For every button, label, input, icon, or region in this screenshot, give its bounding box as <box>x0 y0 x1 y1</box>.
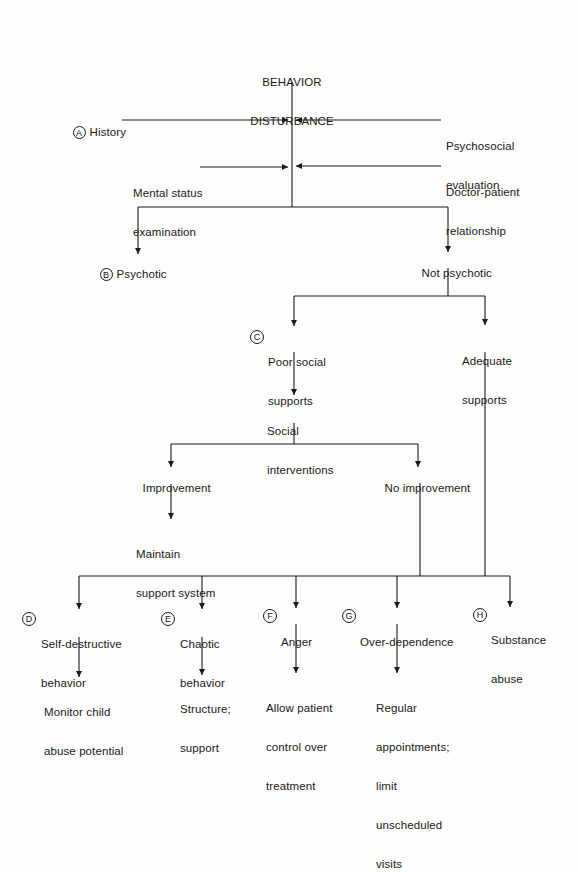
marker-h-icon: H <box>473 608 487 622</box>
doctor-patient-line-1: Doctor-patient <box>446 186 520 199</box>
mental-status-node: Mental status examination <box>133 161 203 252</box>
adequate-line-1: Adequate <box>462 355 512 368</box>
marker-e-icon: E <box>161 612 175 626</box>
psychosocial-line-1: Psychosocial <box>446 140 514 153</box>
no-improvement-node: No improvement <box>378 469 470 495</box>
substance-abuse-node: Substance abuse <box>491 608 546 699</box>
action-e-line-2: support <box>180 742 231 755</box>
doctor-patient-line-2: relationship <box>446 225 520 238</box>
mental-status-line-2: examination <box>133 226 203 239</box>
problem-h-line-1: Substance <box>491 634 546 647</box>
psychotic-node: BPsychotic <box>93 255 167 281</box>
improvement-label: Improvement <box>143 482 211 494</box>
action-f-line-3: treatment <box>266 780 333 793</box>
over-dependence-node: Over-dependence <box>360 610 454 662</box>
anger-action: Allow patient control over treatment <box>266 676 333 806</box>
action-d-line-2: abuse potential <box>44 745 124 758</box>
marker-c-icon: C <box>250 330 264 344</box>
action-g-line-4: unscheduled <box>376 819 450 832</box>
title-line-2: DISTURBANCE <box>240 115 344 128</box>
action-f-line-1: Allow patient <box>266 702 333 715</box>
problem-g-line-1: Over-dependence <box>360 636 454 649</box>
problem-e-line-1: Chaotic <box>180 638 225 651</box>
doctor-patient-node: Doctor-patient relationship <box>446 160 520 251</box>
action-g-line-3: limit <box>376 780 450 793</box>
action-g-line-5: visits <box>376 858 450 871</box>
marker-b-icon: B <box>100 268 113 281</box>
maintain-support-node: Maintain support system <box>136 522 215 613</box>
chaotic-action: Structure; support <box>180 677 231 768</box>
history-node: AHistory <box>66 113 126 139</box>
maintain-line-2: support system <box>136 587 215 600</box>
not-psychotic-node: Not psychotic <box>415 254 492 280</box>
social-interventions-node: Social interventions <box>267 399 334 490</box>
poor-social-line-1: Poor social <box>268 356 326 369</box>
psychotic-label: Psychotic <box>117 268 167 280</box>
marker-g-icon: G <box>342 609 356 623</box>
improvement-node: Improvement <box>136 469 211 495</box>
action-d-line-1: Monitor child <box>44 706 124 719</box>
adequate-supports-node: Adequate supports <box>462 329 512 420</box>
not-psychotic-label: Not psychotic <box>422 267 492 279</box>
problem-d-line-1: Self-destructive <box>41 638 122 651</box>
marker-d-icon: D <box>22 612 36 626</box>
no-improvement-label: No improvement <box>385 482 471 494</box>
social-interventions-line-2: interventions <box>267 464 334 477</box>
action-f-line-2: control over <box>266 741 333 754</box>
action-g-line-2: appointments; <box>376 741 450 754</box>
problem-h-line-2: abuse <box>491 673 546 686</box>
adequate-line-2: supports <box>462 394 512 407</box>
history-label: History <box>90 126 126 138</box>
action-g-line-1: Regular <box>376 702 450 715</box>
action-e-line-1: Structure; <box>180 703 231 716</box>
title-line-1: BEHAVIOR <box>240 76 344 89</box>
anger-node: Anger <box>281 610 312 662</box>
mental-status-line-1: Mental status <box>133 187 203 200</box>
maintain-line-1: Maintain <box>136 548 215 561</box>
marker-a-icon: A <box>73 126 86 139</box>
marker-f-icon: F <box>263 609 277 623</box>
self-destructive-action: Monitor child abuse potential <box>44 680 124 771</box>
social-interventions-line-1: Social <box>267 425 334 438</box>
root-node-title: BEHAVIOR DISTURBANCE <box>240 50 344 141</box>
over-dependence-action: Regular appointments; limit unscheduled … <box>376 676 450 872</box>
problem-f-line-1: Anger <box>281 636 312 649</box>
